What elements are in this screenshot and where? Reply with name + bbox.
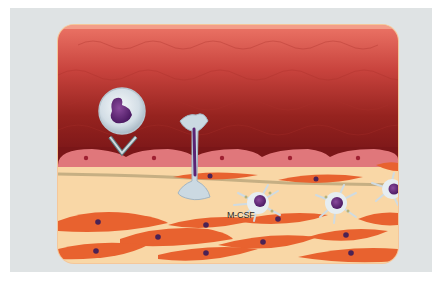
endothelial-layer: [58, 147, 398, 167]
macrophage-2: [316, 185, 356, 223]
mcsf-label: M-CSF: [227, 210, 255, 220]
vessel-wall-illustration: M-CSF: [58, 25, 398, 263]
vessel-diagram: [58, 25, 398, 263]
macrophage-3: [372, 173, 398, 205]
cropped-caption: [0, 276, 444, 285]
vessel-lumen: [58, 25, 398, 155]
